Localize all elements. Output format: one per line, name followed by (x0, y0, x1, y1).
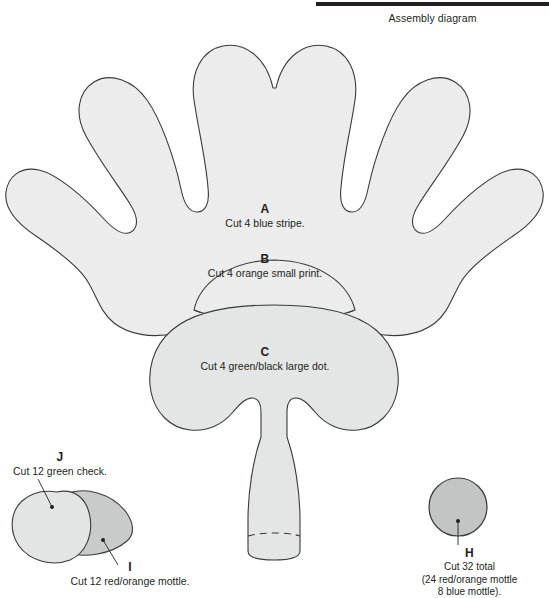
leader-dot-h (456, 519, 460, 523)
piece-c-description: Cut 4 green/black large dot. (165, 360, 365, 373)
piece-i-key: I (45, 560, 215, 575)
piece-b-key: B (175, 252, 355, 267)
piece-a-key: A (175, 202, 355, 217)
leader-dot-j (50, 505, 54, 509)
piece-h-key: H (390, 546, 549, 561)
pattern-artwork (0, 0, 549, 598)
piece-b-description: Cut 4 orange small print. (175, 267, 355, 280)
piece-c-key: C (165, 345, 365, 360)
piece-label-h: H Cut 32 total (24 red/orange mottle 8 b… (390, 546, 549, 598)
piece-label-j: J Cut 12 green check. (0, 450, 120, 478)
piece-label-b: B Cut 4 orange small print. (175, 252, 355, 280)
piece-h-description-line-1: Cut 32 total (390, 561, 549, 574)
piece-h-description-line-3: 8 blue mottle). (390, 586, 549, 598)
piece-j-key: J (0, 450, 120, 465)
piece-i-description: Cut 12 red/orange mottle. (45, 575, 215, 588)
leader-dot-i (101, 538, 105, 542)
piece-j-leaf-round (12, 491, 90, 563)
assembly-diagram-page: Assembly diagram A Cut 4 blue stripe. (0, 0, 549, 598)
piece-h-description-line-2: (24 red/orange mottle (390, 574, 549, 587)
piece-a-description: Cut 4 blue stripe. (175, 217, 355, 230)
piece-j-description: Cut 12 green check. (0, 465, 120, 478)
piece-c-body-stem (150, 305, 399, 560)
piece-label-c: C Cut 4 green/black large dot. (165, 345, 365, 373)
piece-label-a: A Cut 4 blue stripe. (175, 202, 355, 230)
piece-label-i: I Cut 12 red/orange mottle. (45, 560, 215, 588)
